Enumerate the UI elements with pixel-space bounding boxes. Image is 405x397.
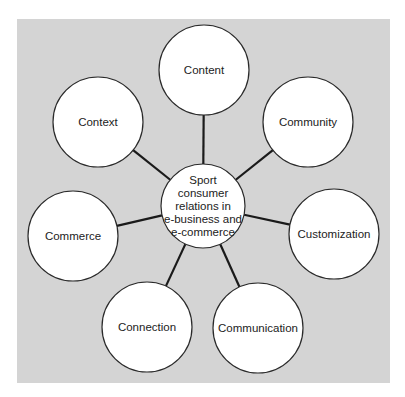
node-commerce: Commerce — [28, 191, 118, 281]
node-label: Communication — [218, 322, 298, 334]
node-label: Customization — [298, 228, 371, 240]
node-content: Content — [159, 25, 249, 115]
node-customization: Customization — [289, 189, 379, 279]
node-label: Context — [78, 116, 118, 128]
center-label-line: e-commerce — [171, 226, 235, 238]
center-label-line: relations in — [175, 200, 231, 212]
node-context: Context — [53, 77, 143, 167]
node-label: Community — [279, 116, 337, 128]
node-label: Commerce — [45, 230, 101, 242]
node-connection: Connection — [102, 282, 192, 372]
center-label-line: e-business and — [164, 213, 242, 225]
center-label-line: Sport — [189, 174, 217, 186]
node-community: Community — [263, 77, 353, 167]
center-node: Sportconsumerrelations ine-business ande… — [161, 164, 245, 248]
node-label: Connection — [118, 321, 176, 333]
seven-c-diagram: Sportconsumerrelations ine-business ande… — [0, 0, 405, 397]
node-label: Content — [184, 64, 225, 76]
center-label-line: consumer — [178, 187, 229, 199]
node-communication: Communication — [213, 283, 303, 373]
